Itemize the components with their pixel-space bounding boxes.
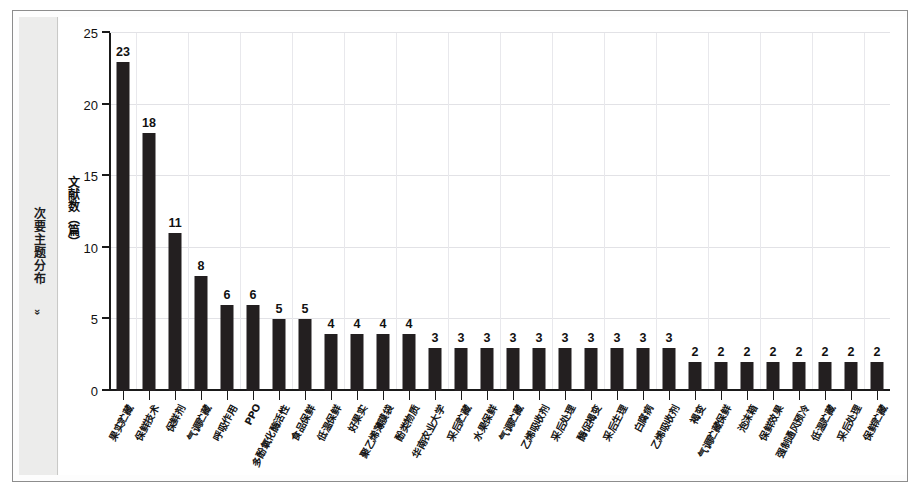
bar[interactable] — [325, 334, 338, 391]
bar[interactable] — [767, 362, 780, 391]
x-axis-tick — [409, 391, 410, 400]
bar[interactable] — [247, 305, 260, 391]
bar[interactable] — [143, 133, 156, 391]
bar-value-label: 3 — [588, 331, 595, 345]
x-axis-tick — [487, 391, 488, 400]
bar[interactable] — [377, 334, 390, 391]
bar[interactable] — [663, 348, 676, 391]
bar-group[interactable]: 3乙烯吸收剂 — [656, 33, 682, 391]
bar[interactable] — [871, 362, 884, 391]
bar-group[interactable]: 3采后处理 — [552, 33, 578, 391]
x-axis-tick — [175, 391, 176, 400]
screenshot-page: 次要主题分布 » 文献数（篇） 0510152025 23果实贮藏18保鲜技术1… — [0, 0, 922, 496]
bar[interactable] — [195, 276, 208, 391]
bar[interactable] — [221, 305, 234, 391]
bar-group[interactable]: 6呼吸作用 — [214, 33, 240, 391]
bar[interactable] — [351, 334, 364, 391]
bar-group[interactable]: 3白腐病 — [630, 33, 656, 391]
x-axis-tick — [695, 391, 696, 400]
x-axis-category-label: 白腐病 — [629, 402, 656, 435]
bar[interactable] — [299, 319, 312, 391]
x-axis-category-label: 保鲜剂 — [161, 402, 188, 435]
y-axis-tick — [102, 246, 110, 248]
bar-value-label: 3 — [614, 331, 621, 345]
bar-group[interactable]: 4聚乙烯薄膜袋 — [370, 33, 396, 391]
bar[interactable] — [429, 348, 442, 391]
bar[interactable] — [117, 62, 130, 391]
bar[interactable] — [845, 362, 858, 391]
bar[interactable] — [715, 362, 728, 391]
bar-group[interactable]: 3酶促褐变 — [578, 33, 604, 391]
bar-group[interactable]: 4酚类物质 — [396, 33, 422, 391]
bar[interactable] — [819, 362, 832, 391]
bar-group[interactable]: 3华南农业大学 — [422, 33, 448, 391]
bar[interactable] — [169, 233, 182, 391]
x-axis-tick — [461, 391, 462, 400]
bar-group[interactable]: 23果实贮藏 — [110, 33, 136, 391]
bar-group[interactable]: 2保鲜效果 — [760, 33, 786, 391]
bar-group[interactable]: 2气调贮藏保鲜 — [708, 33, 734, 391]
bar-value-label: 2 — [744, 345, 751, 359]
x-axis-tick — [123, 391, 124, 400]
sidebar-title: 次要主题分布 — [19, 17, 58, 475]
x-axis-tick — [773, 391, 774, 400]
bar-value-label: 2 — [770, 345, 777, 359]
x-axis-tick — [591, 391, 592, 400]
bar-value-label: 2 — [718, 345, 725, 359]
bar-group[interactable]: 3水果保鲜 — [474, 33, 500, 391]
bar-group[interactable]: 3乙烯吸收剂 — [526, 33, 552, 391]
bar[interactable] — [559, 348, 572, 391]
x-axis-tick — [825, 391, 826, 400]
bar-group[interactable]: 4低温保鲜 — [318, 33, 344, 391]
chevron-double-right-icon[interactable]: » — [32, 309, 44, 315]
bar[interactable] — [793, 362, 806, 391]
x-axis-tick — [747, 391, 748, 400]
bar[interactable] — [455, 348, 468, 391]
bar-group[interactable]: 2保鲜贮藏 — [864, 33, 890, 391]
bar-group[interactable]: 2泡沫箱 — [734, 33, 760, 391]
y-axis-tick-label: 20 — [84, 97, 98, 112]
y-axis-tick-label: 10 — [84, 240, 98, 255]
x-axis-tick — [513, 391, 514, 400]
bar[interactable] — [403, 334, 416, 391]
x-axis-tick — [565, 391, 566, 400]
bar[interactable] — [611, 348, 624, 391]
x-axis-tick — [331, 391, 332, 400]
y-axis-title: 文献数（篇） — [64, 176, 81, 248]
bar-value-label: 5 — [276, 302, 283, 316]
bar[interactable] — [689, 362, 702, 391]
bar-group[interactable]: 5多酚氧化酶活性 — [266, 33, 292, 391]
bar-group[interactable]: 18保鲜技术 — [136, 33, 162, 391]
bar-value-label: 3 — [536, 331, 543, 345]
bar-group[interactable]: 2强制通风预冷 — [786, 33, 812, 391]
bar[interactable] — [585, 348, 598, 391]
bar-group[interactable]: 2低温贮藏 — [812, 33, 838, 391]
bar-value-label: 3 — [432, 331, 439, 345]
x-axis-tick — [357, 391, 358, 400]
bar-group[interactable]: 4好果实 — [344, 33, 370, 391]
bar-group[interactable]: 5食品保鲜 — [292, 33, 318, 391]
bar-group[interactable]: 3采后生理 — [604, 33, 630, 391]
bar[interactable] — [637, 348, 650, 391]
bar-group[interactable]: 3气调贮藏 — [500, 33, 526, 391]
bar[interactable] — [507, 348, 520, 391]
bar-group[interactable]: 2采后处理 — [838, 33, 864, 391]
sidebar-panel[interactable]: 次要主题分布 » — [19, 17, 58, 475]
bar-group[interactable]: 6PPO — [240, 33, 266, 391]
bar[interactable] — [741, 362, 754, 391]
bar-value-label: 2 — [874, 345, 881, 359]
bar-group[interactable]: 8气调贮藏 — [188, 33, 214, 391]
bar-group[interactable]: 2褐变 — [682, 33, 708, 391]
bar[interactable] — [273, 319, 286, 391]
bar[interactable] — [533, 348, 546, 391]
x-axis-tick — [539, 391, 540, 400]
x-axis-tick — [383, 391, 384, 400]
bar-group[interactable]: 3采后贮藏 — [448, 33, 474, 391]
bar-value-label: 3 — [640, 331, 647, 345]
bar[interactable] — [481, 348, 494, 391]
x-axis-tick — [149, 391, 150, 400]
bar-group[interactable]: 11保鲜剂 — [162, 33, 188, 391]
x-axis-tick — [279, 391, 280, 400]
bar-value-label: 3 — [562, 331, 569, 345]
y-axis-tick-label: 0 — [91, 384, 98, 399]
